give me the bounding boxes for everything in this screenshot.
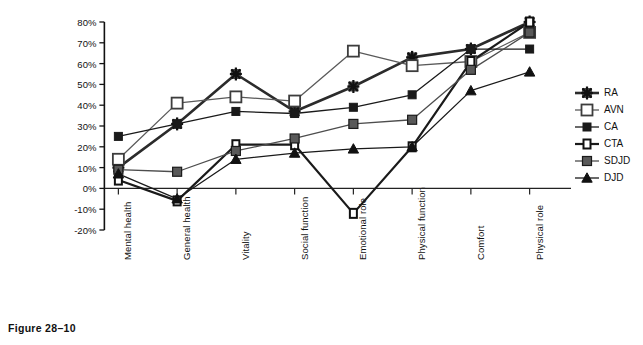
chart-legend: RAAVNCACTASDJDDJD xyxy=(574,84,642,186)
figure-caption: Figure 28–10 xyxy=(8,322,76,334)
legend-marker-sdjd-icon xyxy=(574,154,600,168)
y-tick-label: 10% xyxy=(77,162,96,173)
series-markers-djd xyxy=(113,67,535,203)
legend-label: RA xyxy=(604,87,618,98)
legend-label: DJD xyxy=(604,172,623,183)
legend-item-cta[interactable]: CTA xyxy=(574,135,642,152)
figure-container: Deficit (% below age/sex-matched control… xyxy=(0,0,643,345)
plot-area: Deficit (% below age/sex-matched control… xyxy=(97,22,567,230)
legend-marker-cta-icon xyxy=(574,137,600,151)
x-tick-label: Comfort xyxy=(475,226,486,260)
legend-item-sdjd[interactable]: SDJD xyxy=(574,152,642,169)
legend-item-djd[interactable]: DJD xyxy=(574,169,642,186)
legend-label: CA xyxy=(604,121,618,132)
legend-item-ca[interactable]: CA xyxy=(574,118,642,135)
legend-marker-ra-icon xyxy=(574,86,600,100)
legend-marker-ca-icon xyxy=(574,120,600,134)
legend-item-avn[interactable]: AVN xyxy=(574,101,642,118)
legend-label: CTA xyxy=(604,138,623,149)
chart-plot-svg xyxy=(97,22,567,230)
legend-label: AVN xyxy=(604,104,624,115)
y-tick-label: 80% xyxy=(77,17,96,28)
y-tick-label: -20% xyxy=(74,225,96,236)
y-tick-label: 0% xyxy=(83,183,97,194)
y-tick-label: 40% xyxy=(77,100,96,111)
legend-label: SDJD xyxy=(604,155,630,166)
legend-item-ra[interactable]: RA xyxy=(574,84,642,101)
legend-marker-avn-icon xyxy=(574,103,600,117)
y-tick-label: -10% xyxy=(74,204,96,215)
y-tick-label: 30% xyxy=(77,121,96,132)
x-tick-label: Vitality xyxy=(240,231,251,260)
legend-marker-djd-icon xyxy=(574,171,600,185)
y-tick-label: 20% xyxy=(77,141,96,152)
y-tick-label: 60% xyxy=(77,58,96,69)
y-tick-label: 50% xyxy=(77,79,96,90)
y-tick-label: 70% xyxy=(77,37,96,48)
